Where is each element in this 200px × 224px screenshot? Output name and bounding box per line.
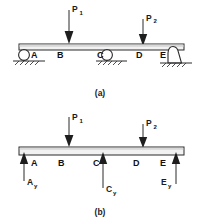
point-label-a-panel-b: A [31, 158, 38, 168]
reaction-label-ey: E [161, 177, 167, 187]
load-subscript-p2-b: 2 [154, 124, 158, 130]
point-label-e-panel-b: E [160, 158, 166, 168]
load-subscript-p2-a: 2 [154, 18, 158, 24]
point-label-c-panel-b: C [93, 158, 100, 168]
load-subscript-p1-a: 1 [80, 10, 84, 16]
beam-b [19, 147, 184, 155]
load-arrow-p1-b: P 1 [65, 112, 84, 147]
figure-canvas: P 1 P 2 [0, 0, 200, 224]
reaction-subscript-ey: y [168, 183, 172, 189]
load-subscript-p1-b: 1 [80, 118, 84, 124]
load-label-p1-a: P [72, 4, 78, 14]
load-label-p2-a: P [146, 13, 152, 23]
point-label-c-panel-a: C [97, 50, 104, 60]
load-arrow-p2-a: P 2 [139, 13, 158, 47]
load-arrow-p1-a: P 1 [65, 4, 84, 44]
caption-panel-a: (a) [95, 88, 106, 98]
point-label-b-panel-a: B [57, 50, 64, 60]
reaction-label-ay: A [27, 177, 33, 187]
beam-figure: P 1 P 2 [0, 0, 200, 224]
point-label-e-panel-a: E [160, 50, 166, 60]
load-label-p1-b: P [72, 112, 78, 122]
reaction-subscript-ay: y [34, 183, 38, 189]
reaction-arrow-cy: C y [99, 152, 117, 196]
reaction-label-cy: C [106, 184, 112, 194]
load-label-p2-b: P [146, 118, 152, 128]
caption-panel-b: (b) [95, 207, 106, 217]
panel-a: P 1 P 2 [13, 4, 192, 98]
reaction-subscript-cy: y [113, 190, 117, 196]
support-a-roller [13, 50, 45, 65]
point-label-a-panel-a: A [31, 50, 38, 60]
point-label-d-panel-a: D [136, 50, 143, 60]
point-label-b-panel-b: B [58, 158, 65, 168]
load-arrow-p2-b: P 2 [139, 118, 158, 148]
point-label-d-panel-b: D [133, 158, 140, 168]
panel-b: P 1 P 2 A y [19, 112, 184, 217]
